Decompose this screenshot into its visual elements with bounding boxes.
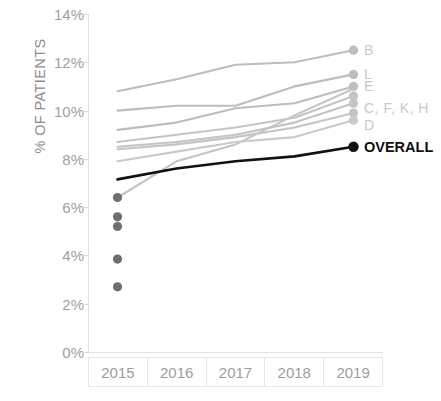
y-tick-mark-12 [82, 62, 89, 63]
x-axis-year-2015: 2015 [88, 357, 148, 387]
y-tick-label-12: 12% [20, 55, 84, 70]
y-tick-mark-8 [82, 159, 89, 160]
series-endpoint-OVERALL [348, 142, 358, 152]
isolated-point-4 [113, 282, 122, 291]
y-tick-mark-2 [82, 304, 89, 305]
series-label-c-f-k-h: C, F, K, H [364, 101, 429, 115]
y-tick-label-10: 10% [20, 104, 84, 119]
series-endpoint-L [349, 70, 358, 79]
y-tick-mark-6 [82, 207, 89, 208]
x-axis-year-2019: 2019 [324, 357, 383, 387]
isolated-point-1 [113, 212, 122, 221]
y-tick-label-8: 8% [20, 152, 84, 167]
y-axis-tick-labels: 0%2%4%6%8%10%12%14% [0, 0, 84, 401]
series-label-overall: OVERALL [364, 140, 433, 155]
series-label-b: B [364, 43, 374, 57]
x-axis-year-2018: 2018 [265, 357, 324, 387]
y-tick-mark-14 [82, 14, 89, 15]
series-line-OVERALL [118, 147, 354, 180]
series-label-d: D [364, 118, 375, 132]
isolated-point-3 [113, 255, 122, 264]
series-canvas [88, 14, 341, 352]
y-tick-mark-0 [82, 352, 89, 353]
y-tick-label-14: 14% [20, 7, 84, 22]
plot-area [88, 14, 341, 352]
series-endpoint-B [349, 46, 358, 55]
y-tick-label-4: 4% [20, 248, 84, 263]
chart-container: % OF PATIENTS 0%2%4%6%8%10%12%14% BLEC, … [0, 0, 441, 401]
y-tick-label-0: 0% [20, 345, 84, 360]
series-endpoint-D [349, 116, 358, 125]
series-label-e: E [364, 79, 374, 93]
series-endpoint-F [349, 99, 358, 108]
isolated-point-2 [113, 222, 122, 231]
x-axis-year-2016: 2016 [148, 357, 207, 387]
y-tick-label-2: 2% [20, 297, 84, 312]
y-tick-mark-4 [82, 255, 89, 256]
x-axis-year-2017: 2017 [207, 357, 266, 387]
y-tick-label-6: 6% [20, 200, 84, 215]
y-tick-mark-10 [82, 111, 89, 112]
x-axis-line [88, 352, 383, 353]
isolated-point-0 [113, 193, 122, 202]
series-line-B [118, 50, 354, 91]
x-axis-year-table: 20152016201720182019 [88, 357, 383, 387]
